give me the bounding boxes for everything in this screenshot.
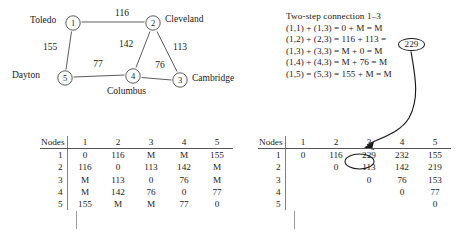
matrix-left-cell-3-3: 0	[134, 174, 167, 186]
matrix-right-cell-1-4: 232	[385, 149, 418, 162]
matrix-right-cell-4-2	[319, 186, 352, 198]
matrix-right-cell-1-2: 116	[319, 149, 352, 162]
equations-block: Two-step connection 1–3 (1,1) + (1,3) = …	[286, 11, 392, 81]
highlighted-result-229: 229	[398, 38, 425, 52]
matrix-right-row-label-3: 3	[258, 174, 286, 186]
matrix-right: Nodes 1 2 3 4 5 1 0 116 229 232 155 2 0 …	[258, 136, 451, 210]
matrix-right-cell-4-4: 0	[385, 186, 418, 198]
node-number-1: 1	[71, 19, 75, 28]
figure-root: 1 2 3 4 5 Toledo Cleveland Cambridge Col…	[0, 0, 471, 232]
matrix-left-header-row: Nodes 1 2 3 4 5	[40, 136, 233, 149]
matrix-right-corner-label: Nodes	[258, 136, 286, 149]
matrix-right-cell-3-4: 76	[385, 174, 418, 186]
edge-2-4	[136, 32, 150, 68]
matrix-right-col-header-3: 3	[352, 136, 385, 149]
edge-weight-4-3: 76	[155, 61, 165, 71]
node-number-2: 2	[151, 19, 155, 28]
matrix-left-row-label-4: 4	[40, 186, 68, 198]
matrix-left-cell-1-5: 155	[200, 149, 233, 162]
matrix-left-col-header-4: 4	[167, 136, 200, 149]
matrix-left-cell-1-4: M	[167, 149, 200, 162]
matrix-right-cell-2-4: 142	[385, 161, 418, 173]
matrix-left-col-header-1: 1	[68, 136, 102, 149]
equation-line-2: (1,2) + (2,3) = 116 + 113 =	[286, 34, 392, 46]
matrix-right-cell-2-3: 113	[352, 161, 385, 173]
matrix-left-col-header-3: 3	[134, 136, 167, 149]
matrix-left-col-header-5: 5	[200, 136, 233, 149]
city-label-toledo: Toledo	[30, 16, 56, 26]
matrix-right-cell-3-2	[319, 174, 352, 186]
city-label-cleveland: Cleveland	[165, 15, 204, 25]
matrix-right-cell-1-3: 229	[352, 149, 385, 162]
table-row: 1 0 116 M M 155	[40, 149, 233, 162]
matrix-right-cell-5-4	[385, 198, 418, 210]
matrix-left-rule-extension	[76, 211, 77, 229]
matrix-right-row-label-5: 5	[258, 198, 286, 210]
matrix-right-cell-5-1	[286, 198, 320, 210]
edge-weight-1-5: 155	[43, 43, 57, 53]
matrix-right-cell-4-1	[286, 186, 320, 198]
equation-line-3: (1,3) + (3,3) = M + 0 = M	[286, 46, 392, 58]
matrix-right-col-header-1: 1	[286, 136, 320, 149]
matrix-right-cell-4-5: 77	[418, 186, 451, 198]
graph-node-circles	[58, 16, 187, 87]
matrix-right-row-label-4: 4	[258, 186, 286, 198]
matrix-left-cell-1-3: M	[134, 149, 167, 162]
matrix-right-cell-3-1	[286, 174, 320, 186]
matrix-left-cell-3-2: 113	[101, 174, 134, 186]
city-label-cambridge: Cambridge	[192, 74, 234, 84]
matrix-left-cell-2-5: M	[200, 161, 233, 173]
matrix-left-cell-5-3: M	[134, 198, 167, 210]
matrix-left-cell-3-5: M	[200, 174, 233, 186]
matrix-left-cell-5-5: 0	[200, 198, 233, 210]
matrix-right-cell-2-1	[286, 161, 320, 173]
matrix-left-cell-5-4: 77	[167, 198, 200, 210]
matrix-left-cell-4-1: M	[68, 186, 102, 198]
edge-weight-5-4: 77	[93, 60, 103, 70]
node-number-3: 3	[178, 76, 182, 85]
table-row: 5 0	[258, 198, 451, 210]
node-number-5: 5	[63, 74, 67, 83]
matrix-left-cell-3-4: 76	[167, 174, 200, 186]
matrix-left-cell-4-2: 142	[101, 186, 134, 198]
matrix-right-col-header-5: 5	[418, 136, 451, 149]
matrix-right-cell-5-3	[352, 198, 385, 210]
matrix-left-col-header-2: 2	[101, 136, 134, 149]
equation-line-4: (1,4) + (4,3) = M + 76 = M	[286, 57, 392, 69]
graph-edges	[66, 22, 177, 80]
matrix-left-cell-2-1: 116	[68, 161, 102, 173]
matrix-right-cell-1-1: 0	[286, 149, 320, 162]
matrix-left-row-label-1: 1	[40, 149, 68, 162]
matrix-right-cell-2-5: 219	[418, 161, 451, 173]
matrix-left-cell-1-2: 116	[101, 149, 134, 162]
city-label-dayton: Dayton	[12, 71, 40, 81]
matrix-right-cell-5-2	[319, 198, 352, 210]
matrix-left-cell-4-4: 0	[167, 186, 200, 198]
matrix-left-cell-5-1: 155	[68, 198, 102, 210]
matrix-left-row-label-5: 5	[40, 198, 68, 210]
matrix-right-cell-1-5: 155	[418, 149, 451, 162]
matrix-left-row-label-3: 3	[40, 174, 68, 186]
edge-weight-2-4: 142	[119, 40, 133, 50]
edge-5-4	[74, 75, 125, 77]
matrix-right-cell-3-5: 153	[418, 174, 451, 186]
matrix-left-cell-5-2: M	[101, 198, 134, 210]
table-row: 5 155 M M 77 0	[40, 198, 233, 210]
city-label-columbus: Columbus	[107, 87, 146, 97]
equation-line-5: (1,5) = (5,3) = 155 + M = M	[286, 69, 392, 81]
matrix-left-cell-2-3: 113	[134, 161, 167, 173]
table-row: 4 0 77	[258, 186, 451, 198]
matrix-left-cell-3-1: M	[68, 174, 102, 186]
matrix-right-cell-2-2: 0	[319, 161, 352, 173]
matrix-left-corner-label: Nodes	[40, 136, 68, 149]
matrix-right-rule-extension	[294, 211, 295, 229]
edge-weight-2-3: 113	[173, 43, 187, 53]
matrix-left-cell-1-1: 0	[68, 149, 102, 162]
table-row: 4 M 142 76 0 77	[40, 186, 233, 198]
matrix-left: Nodes 1 2 3 4 5 1 0 116 M M 155 2 116 0 …	[40, 136, 233, 210]
table-row: 3 0 76 153	[258, 174, 451, 186]
matrix-right-col-header-2: 2	[319, 136, 352, 149]
matrix-left-cell-2-2: 0	[101, 161, 134, 173]
table-row: 1 0 116 229 232 155	[258, 149, 451, 162]
matrix-right-cell-4-3	[352, 186, 385, 198]
